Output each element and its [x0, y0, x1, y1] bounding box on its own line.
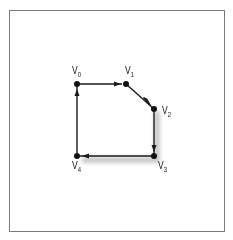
edges: [75, 82, 157, 159]
label-v2: V2: [162, 106, 171, 120]
label-v4-sub: 4: [78, 166, 81, 173]
label-v4: V4: [72, 161, 81, 175]
label-v0: V0: [72, 66, 81, 80]
label-v2-sub: 2: [168, 111, 171, 118]
node-v3: [151, 153, 157, 159]
edge-v4-v0-arrow-icon: [75, 89, 80, 96]
edge-v0-v1-arrow-icon: [114, 82, 121, 87]
label-v0-sub: 0: [78, 71, 81, 78]
node-v1: [123, 81, 129, 87]
edge-shadow: [82, 111, 157, 160]
polygon-diagram: [0, 0, 233, 240]
edge-v1-v2-arrow-icon: [144, 98, 151, 106]
node-v4: [74, 153, 80, 159]
node-v2: [151, 106, 157, 112]
label-v3-sub: 3: [164, 166, 167, 173]
label-v1: V1: [125, 66, 134, 80]
label-v1-sub: 1: [131, 71, 134, 78]
label-v3: V3: [158, 161, 167, 175]
nodes: [74, 81, 157, 159]
node-v0: [74, 81, 80, 87]
